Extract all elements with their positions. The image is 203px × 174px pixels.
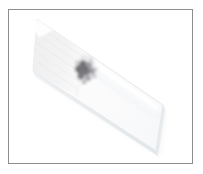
image-frame bbox=[8, 9, 193, 164]
photo-area bbox=[9, 10, 192, 163]
screenshot-canvas: Glass microscope slide Frosted label end… bbox=[0, 0, 203, 174]
microscope-slide-illustration bbox=[9, 10, 192, 163]
